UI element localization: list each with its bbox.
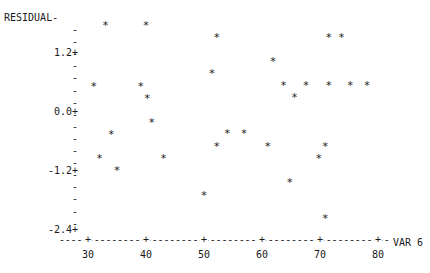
x-tick-label: 30 [82,249,94,260]
data-point-star: * [161,152,167,165]
x-axis: ----------------------------------------… [59,234,390,260]
x-tick-mark: + [375,234,381,245]
x-tick-mark: + [85,234,91,245]
data-point-star: * [97,152,103,165]
data-point-star: * [322,212,328,225]
data-points: ****************************** [91,19,370,225]
data-point-star: * [265,140,271,153]
data-point-star: * [316,152,322,165]
x-tick-label: 40 [140,249,152,260]
data-point-star: * [364,79,370,92]
data-point-star: * [138,80,144,93]
y-axis-dash: - [72,60,78,71]
y-tick-label: 0.0+ [54,106,78,117]
data-point-star: * [287,176,293,189]
x-tick-label: 50 [198,249,210,260]
data-point-star: * [303,79,309,92]
y-axis-dash: - [72,72,78,83]
data-point-star: * [108,128,114,141]
x-tick-mark: + [143,234,149,245]
data-point-star: * [149,116,155,129]
data-point-star: * [214,140,220,153]
y-axis-dash: - [72,24,78,35]
x-axis-title: VAR 6 [393,237,423,248]
y-axis-dash: - [72,193,78,204]
y-axis-dash: - [72,181,78,192]
x-tick-mark: + [317,234,323,245]
y-axis-title: RESIDUAL- [4,12,58,23]
x-axis-dot: - [384,234,390,245]
data-point-star: * [201,189,207,202]
data-point-star: * [326,79,332,92]
data-point-star: * [214,31,220,44]
data-point-star: * [339,31,345,44]
data-point-star: * [144,92,150,105]
data-point-star: * [224,127,230,140]
y-axis-dash: - [72,133,78,144]
residual-scatter-plot: -----------------1.2+0.0+-1.2+-2.4+ ----… [0,0,430,273]
y-axis: -----------------1.2+0.0+-1.2+-2.4+ [48,24,78,235]
data-point-star: * [270,55,276,68]
data-point-star: * [91,80,97,93]
x-tick-mark: + [201,234,207,245]
data-point-star: * [241,127,247,140]
data-point-star: * [322,140,328,153]
data-point-star: * [103,19,109,32]
data-point-star: * [281,79,287,92]
x-tick-mark: + [259,234,265,245]
y-axis-dash: - [72,36,78,47]
data-point-star: * [326,31,332,44]
y-axis-dash: - [72,206,78,217]
data-point-star: * [292,91,298,104]
x-tick-label: 70 [314,249,326,260]
y-tick-label: -1.2+ [48,165,78,176]
y-tick-label: 1.2+ [54,47,78,58]
data-point-star: * [347,79,353,92]
y-axis-dash: - [72,85,78,96]
data-point-star: * [143,19,149,32]
y-axis-dash: - [72,121,78,132]
x-tick-label: 80 [372,249,384,260]
y-axis-dash: - [72,145,78,156]
data-point-star: * [209,67,215,80]
x-tick-label: 60 [256,249,268,260]
data-point-star: * [114,164,120,177]
